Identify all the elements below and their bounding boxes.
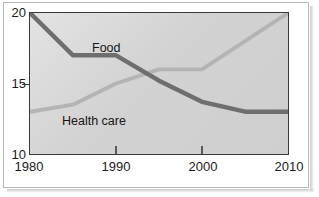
x-axis-tick-label-1990: 1990 <box>94 160 138 173</box>
plot-svg <box>30 13 288 154</box>
y-axis-tick-label-20: 20 <box>2 6 26 19</box>
x-axis-tick-marks <box>116 146 202 154</box>
y-axis-tick-mark-15 <box>22 84 29 86</box>
series-line-food <box>30 13 288 112</box>
figure-shadow-bottom <box>7 189 313 193</box>
x-axis-tick-label-1980: 1980 <box>7 160 51 173</box>
chart-figure: 20 15 10 1980 1990 2000 2010 Food Health… <box>0 0 319 197</box>
x-axis-tick-label-2010: 2010 <box>267 160 311 173</box>
series-annotation-food: Food <box>92 42 121 55</box>
x-axis-tick-label-2000: 2000 <box>181 160 225 173</box>
series-annotation-health-care: Health care <box>62 115 126 128</box>
series-line-health-care <box>30 13 288 112</box>
plot-area <box>29 12 289 155</box>
